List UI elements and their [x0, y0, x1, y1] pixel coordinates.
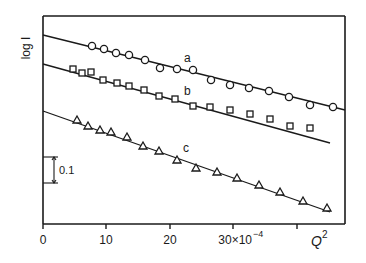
x-tick-label-30: 30×10 — [218, 233, 252, 247]
x-tick-label-10: 10 — [99, 233, 113, 247]
series-label-c: c — [183, 141, 189, 155]
fit-line-b — [43, 64, 330, 143]
x-tick-exponent: −4 — [253, 229, 263, 239]
x-axis-label-exponent: 2 — [322, 229, 328, 240]
series-b-markers — [70, 66, 313, 131]
x-tick-label-20: 20 — [163, 233, 177, 247]
series-a-markers — [88, 42, 336, 110]
scale-bar — [43, 157, 58, 183]
x-axis-label: Q — [311, 233, 322, 249]
series-c-markers — [73, 116, 331, 211]
series-label-b: b — [184, 84, 191, 98]
chart: 0 10 20 30×10 −4 Q 2 log I 0.1 — [0, 0, 366, 263]
x-tick-label-0: 0 — [40, 233, 47, 247]
scale-bar-label: 0.1 — [59, 164, 74, 176]
y-axis-label: log I — [19, 37, 33, 60]
series-label-a: a — [184, 51, 191, 65]
